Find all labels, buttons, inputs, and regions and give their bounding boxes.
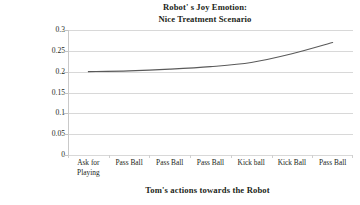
x-axis-title: Tom's actions towards the Robot	[60, 185, 355, 196]
series-joy-path	[88, 43, 332, 72]
y-tick-label: 0.1	[17, 109, 65, 117]
x-tick-label-line: Pass Ball	[305, 158, 360, 168]
y-tick-label: 0.25	[17, 47, 65, 55]
joy-emotion-line-chart: Robot' s Joy Emotion: Nice Treatment Sce…	[0, 0, 360, 205]
y-tick-label: 0.2	[17, 68, 65, 76]
x-tick-label: Pass Ball	[305, 158, 360, 168]
x-tick-label-line: Playing	[61, 168, 116, 178]
x-axis-labels: Ask forPlayingPass BallPass BallPass Bal…	[68, 158, 353, 180]
plot-area	[68, 30, 353, 155]
y-tick-label: 0	[17, 151, 65, 159]
chart-title-line-2: Nice Treatment Scenario	[60, 14, 350, 26]
y-tick-label: 0.3	[17, 26, 65, 34]
y-tick-label: 0.15	[17, 89, 65, 97]
chart-title: Robot' s Joy Emotion: Nice Treatment Sce…	[60, 2, 350, 25]
chart-title-line-1: Robot' s Joy Emotion:	[60, 2, 350, 14]
series-joy-line	[68, 30, 353, 155]
y-tick-label: 0.05	[17, 130, 65, 138]
